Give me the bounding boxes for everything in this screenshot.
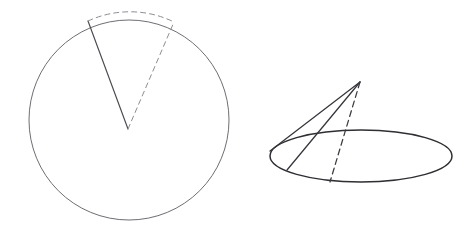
sector-right-radius	[128, 22, 174, 129]
cone-base-ellipse	[270, 130, 452, 182]
geometry-diagram	[0, 0, 476, 252]
sector-left-radius	[88, 21, 128, 129]
circle-figure	[29, 12, 229, 220]
cone-slant-dashed	[330, 82, 360, 182]
figure-canvas	[0, 0, 476, 252]
cone-slant-left	[270, 82, 360, 151]
circle-outline	[29, 20, 229, 220]
cone-figure	[270, 82, 452, 182]
cone-slant-inner	[287, 82, 360, 170]
